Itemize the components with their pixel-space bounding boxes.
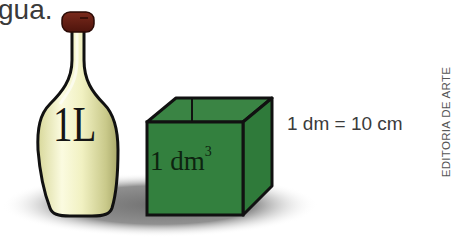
cube-volume-label: 1 dm3 — [150, 146, 212, 177]
unit-equation: 1 dm = 10 cm — [287, 113, 403, 135]
cube-exponent: 3 — [205, 144, 212, 159]
image-credit: EDITORIA DE ARTE — [440, 67, 452, 177]
bottle-volume-label: 1L — [53, 95, 96, 153]
illustration: gua. — [0, 0, 460, 243]
cube-unit: 1 dm — [150, 146, 205, 176]
